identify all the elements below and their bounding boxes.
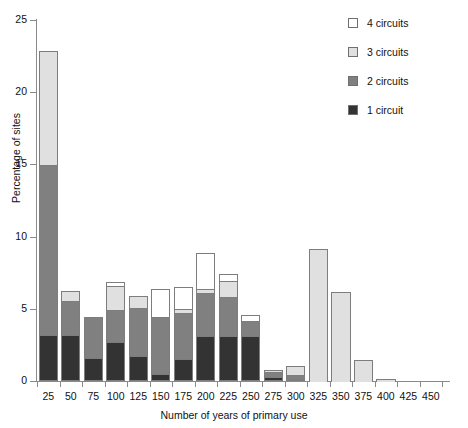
x-tick-mark bbox=[82, 382, 83, 387]
x-tick-mark bbox=[352, 382, 353, 387]
bar-50 bbox=[61, 289, 80, 381]
bar-325 bbox=[309, 248, 328, 381]
x-tick-mark bbox=[240, 382, 241, 387]
x-tick-mark bbox=[397, 382, 398, 387]
bar-segment-3-circuits bbox=[331, 292, 350, 382]
x-tick-mark bbox=[262, 382, 263, 387]
bar-segment-1-circuit bbox=[129, 356, 148, 381]
bar-segment-4-circuits bbox=[196, 253, 215, 291]
legend-label: 1 circuit bbox=[367, 104, 403, 116]
x-tick-mark bbox=[150, 382, 151, 387]
bar-150 bbox=[151, 286, 170, 381]
y-tick-label: 25 bbox=[0, 14, 27, 25]
legend-swatch bbox=[348, 18, 358, 28]
bar-segment-2-circuits bbox=[196, 293, 215, 338]
legend-item-3-circuits: 3 circuits bbox=[348, 37, 408, 66]
x-tick-mark bbox=[127, 382, 128, 387]
bar-segment-1-circuit bbox=[241, 336, 260, 381]
bar-segment-4-circuits bbox=[151, 289, 170, 318]
y-tick-label: 0 bbox=[0, 375, 27, 386]
legend-label: 3 circuits bbox=[367, 46, 408, 58]
x-tick-label: 450 bbox=[414, 391, 448, 402]
bar-segment-4-circuits bbox=[174, 287, 193, 310]
y-tick-mark bbox=[30, 164, 36, 165]
bar-segment-2-circuits bbox=[84, 317, 103, 359]
x-tick-mark bbox=[37, 382, 38, 387]
bar-segment-2-circuits bbox=[174, 313, 193, 361]
legend-label: 2 circuits bbox=[367, 75, 408, 87]
bar-100 bbox=[106, 278, 125, 381]
bar-175 bbox=[174, 284, 193, 381]
bar-segment-1-circuit bbox=[106, 342, 125, 381]
y-tick-mark bbox=[30, 381, 36, 382]
y-tick-mark bbox=[30, 92, 36, 93]
legend-swatch bbox=[348, 47, 358, 57]
bar-400 bbox=[376, 378, 395, 381]
legend-item-2-circuits: 2 circuits bbox=[348, 66, 408, 95]
y-tick-mark bbox=[30, 20, 36, 21]
legend-item-4-circuits: 4 circuits bbox=[348, 8, 408, 37]
bar-segment-1-circuit bbox=[196, 336, 215, 381]
y-axis-title: Percentage of sites bbox=[10, 88, 22, 228]
bar-segment-3-circuits bbox=[309, 249, 328, 382]
y-tick-mark bbox=[30, 237, 36, 238]
bar-segment-1-circuit bbox=[219, 336, 238, 381]
bar-segment-3-circuits bbox=[354, 360, 373, 382]
x-tick-mark bbox=[105, 382, 106, 387]
bar-segment-1-circuit bbox=[151, 374, 170, 381]
bar-segment-1-circuit bbox=[264, 377, 283, 381]
y-tick-label: 10 bbox=[0, 231, 27, 242]
x-axis-title: Number of years of primary use bbox=[0, 409, 468, 421]
bar-segment-2-circuits bbox=[219, 297, 238, 337]
x-tick-mark bbox=[307, 382, 308, 387]
x-tick-mark bbox=[442, 382, 443, 387]
x-tick-mark bbox=[420, 382, 421, 387]
x-tick-mark bbox=[172, 382, 173, 387]
bar-segment-3-circuits bbox=[39, 51, 58, 167]
x-tick-mark bbox=[217, 382, 218, 387]
x-tick-mark bbox=[330, 382, 331, 387]
bar-75 bbox=[84, 316, 103, 381]
x-tick-mark bbox=[285, 382, 286, 387]
legend-swatch bbox=[348, 76, 358, 86]
bar-250 bbox=[241, 312, 260, 381]
bar-200 bbox=[196, 250, 215, 381]
y-tick-label: 5 bbox=[0, 303, 27, 314]
bar-segment-2-circuits bbox=[61, 301, 80, 336]
legend-swatch bbox=[348, 105, 358, 115]
bar-segment-2-circuits bbox=[129, 308, 148, 357]
bar-segment-1-circuit bbox=[84, 358, 103, 381]
x-tick-mark bbox=[60, 382, 61, 387]
bar-segment-2-circuits bbox=[106, 310, 125, 343]
bar-375 bbox=[354, 359, 373, 381]
chart-legend: 4 circuits3 circuits2 circuits1 circuit bbox=[348, 8, 408, 124]
bar-segment-2-circuits bbox=[151, 317, 170, 375]
x-tick-mark bbox=[195, 382, 196, 387]
bar-segment-1-circuit bbox=[174, 359, 193, 381]
legend-item-1-circuit: 1 circuit bbox=[348, 95, 408, 124]
x-tick-mark bbox=[375, 382, 376, 387]
bar-300 bbox=[286, 364, 305, 381]
stacked-bar-chart: 0510152025 25507510012515017520022525027… bbox=[0, 0, 468, 428]
bar-275 bbox=[264, 368, 283, 381]
legend-label: 4 circuits bbox=[367, 17, 408, 29]
bar-segment-3-circuits bbox=[219, 281, 238, 298]
bar-segment-3-circuits bbox=[106, 286, 125, 311]
bar-225 bbox=[219, 271, 238, 381]
bar-segment-1-circuit bbox=[39, 335, 58, 381]
bar-segment-1-circuit bbox=[286, 379, 305, 381]
bar-segment-2-circuits bbox=[39, 165, 58, 335]
bar-25 bbox=[39, 49, 58, 381]
bar-segment-1-circuit bbox=[61, 335, 80, 381]
bar-segment-2-circuits bbox=[241, 321, 260, 337]
y-tick-mark bbox=[30, 309, 36, 310]
bar-segment-3-circuits bbox=[376, 379, 395, 382]
bar-350 bbox=[331, 291, 350, 381]
bar-125 bbox=[129, 294, 148, 381]
